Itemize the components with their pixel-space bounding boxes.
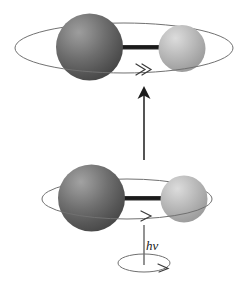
photon-energy-label: hν: [146, 238, 158, 254]
lower-rotation-arrow-icon: [141, 211, 151, 221]
figure-canvas: hν: [0, 0, 248, 285]
lower-molecule-group: [42, 165, 212, 232]
molecule-rotational-excitation-diagram: [0, 0, 248, 285]
photon-spin-arrow-icon: [158, 264, 168, 272]
upper-rotation-arrow-icon: [136, 64, 151, 75]
upper-dark-atom: [56, 14, 123, 81]
photon-group: [118, 225, 170, 272]
upper-molecule-group: [15, 14, 233, 81]
lower-dark-atom: [58, 165, 125, 232]
upper-light-atom: [159, 25, 206, 72]
lower-light-atom: [161, 176, 208, 223]
transition-arrow-group: [138, 86, 151, 160]
